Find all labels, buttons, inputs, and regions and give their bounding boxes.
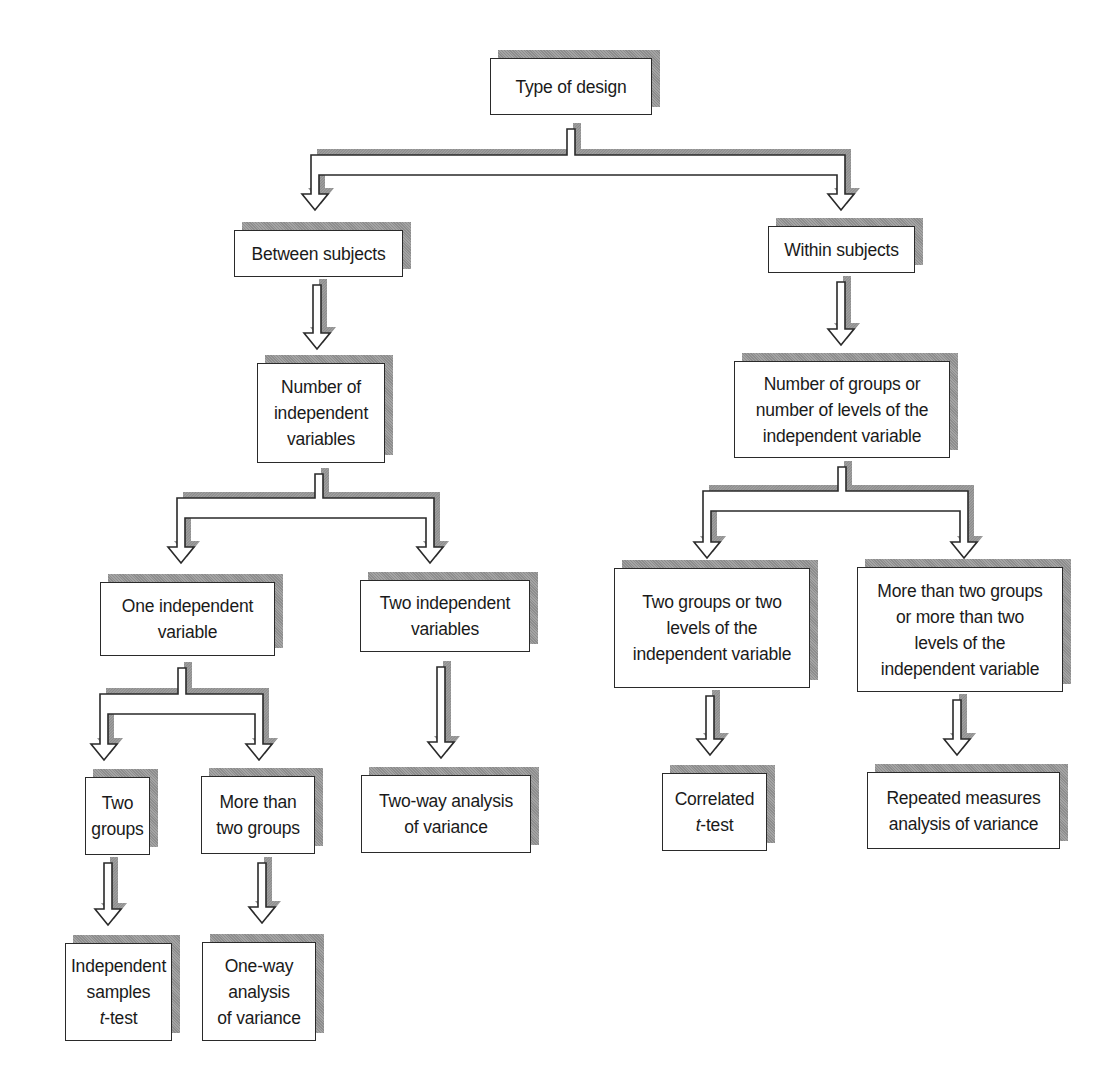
node-label: One-way analysis of variance (202, 942, 316, 1041)
node-repeated-measures-anova: Repeated measures analysis of variance (867, 772, 1060, 849)
node-label: Correlated t-test (662, 773, 767, 851)
node-number-of-independent-variables: Number of independent variables (257, 363, 385, 463)
node-label: Two independent variables (360, 580, 530, 652)
node-within-subjects: Within subjects (768, 226, 915, 273)
node-label: One independent variable (100, 582, 275, 656)
node-two-way-anova: Two-way analysis of variance (361, 775, 531, 853)
arrow-shape (91, 668, 272, 760)
node-correlated-t-test: Correlated t-test (662, 773, 767, 851)
node-between-subjects: Between subjects (234, 230, 403, 277)
node-label: Within subjects (768, 226, 915, 273)
node-label: Number of independent variables (257, 363, 385, 463)
node-label: Two-way analysis of variance (361, 775, 531, 853)
node-label: Two groups (85, 777, 150, 855)
node-label: Type of design (490, 58, 652, 115)
node-two-groups-or-levels: Two groups or two levels of the independ… (614, 568, 810, 688)
node-label: More than two groups (201, 776, 315, 854)
node-label: Independent samples t-test (65, 943, 172, 1041)
arrow-shape (694, 467, 977, 558)
node-label: More than two groups or more than two le… (857, 567, 1063, 692)
node-more-than-two-groups: More than two groups (201, 776, 315, 854)
node-label: Two groups or two levels of the independ… (614, 568, 810, 688)
design-flowchart: Type of design Between subjects Within s… (0, 0, 1116, 1082)
node-number-of-groups-or-levels: Number of groups or number of levels of … (734, 361, 950, 458)
node-label: Number of groups or number of levels of … (734, 361, 950, 458)
node-two-groups: Two groups (85, 777, 150, 855)
node-type-of-design: Type of design (490, 58, 652, 115)
node-one-independent-variable: One independent variable (100, 582, 275, 656)
node-label: Between subjects (234, 230, 403, 277)
connector-arrows (0, 0, 1116, 1082)
node-one-way-anova: One-way analysis of variance (202, 942, 316, 1041)
node-label: Repeated measures analysis of variance (867, 772, 1060, 849)
node-more-than-two-groups-or-levels: More than two groups or more than two le… (857, 567, 1063, 692)
node-two-independent-variables: Two independent variables (360, 580, 530, 652)
arrow-shape (168, 474, 443, 563)
node-independent-samples-t-test: Independent samples t-test (65, 943, 172, 1041)
